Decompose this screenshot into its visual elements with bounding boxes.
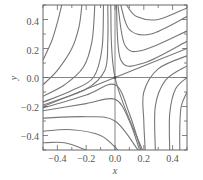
ytick-label: 0.0 [27, 73, 40, 84]
saddle-point-marker [113, 76, 116, 79]
streamline-bl-5 [43, 142, 86, 150]
xtick-label: −0.4 [48, 153, 66, 164]
streamline-tr-1 [127, 5, 188, 20]
xtick-label: 0.0 [109, 153, 122, 164]
ytick-label: 0.2 [27, 45, 40, 56]
xtick-label: 0.4 [166, 153, 179, 164]
streamline-bl-4 [43, 130, 118, 150]
ytick-label: −0.2 [21, 102, 39, 113]
streamline-tl-2 [43, 5, 82, 85]
streamline-tl-5 [43, 5, 108, 105]
y-axis-label: y [8, 75, 19, 81]
streamline-bl-3 [43, 117, 138, 150]
chart-svg: 0.4 0.2 0.0 −0.2 −0.4 −0.4 −0.2 0.0 0.2 … [0, 0, 203, 180]
ytick-label: 0.4 [27, 16, 40, 27]
x-axis-label: x [112, 165, 118, 176]
xtick-label: −0.2 [77, 153, 95, 164]
streamline-br-3 [169, 78, 187, 151]
streamline-tl-1 [43, 5, 62, 60]
phase-portrait-chart: 0.4 0.2 0.0 −0.2 −0.4 −0.4 −0.2 0.0 0.2 … [0, 0, 203, 180]
ytick-label: −0.4 [21, 131, 39, 142]
xtick-label: 0.2 [138, 153, 151, 164]
